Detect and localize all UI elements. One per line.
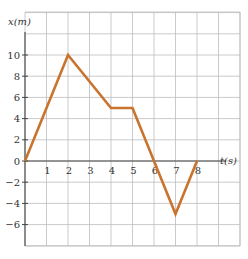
y-tick-label: 8 <box>14 71 20 82</box>
x-tick-label: 5 <box>130 165 136 176</box>
y-tick-label: 4 <box>14 113 20 124</box>
y-tick-label: 10 <box>7 50 20 61</box>
x-tick-label: 7 <box>173 165 179 176</box>
y-tick-label: −2 <box>5 177 20 188</box>
position-time-chart: 1086420−2−4−612345678x(m)t(s) <box>0 0 248 259</box>
x-tick-label: 4 <box>109 165 115 176</box>
y-axis-label: x(m) <box>8 16 31 27</box>
y-tick-label: −4 <box>5 198 20 209</box>
x-tick-label: 2 <box>66 165 72 176</box>
grid <box>25 12 240 246</box>
y-tick-label: 6 <box>14 92 20 103</box>
x-tick-label: 3 <box>87 165 93 176</box>
x-tick-label: 1 <box>44 165 50 176</box>
y-tick-label: −6 <box>5 219 20 230</box>
y-tick-label: 0 <box>14 156 20 167</box>
y-tick-label: 2 <box>14 134 20 145</box>
x-axis-label: t(s) <box>220 155 237 166</box>
